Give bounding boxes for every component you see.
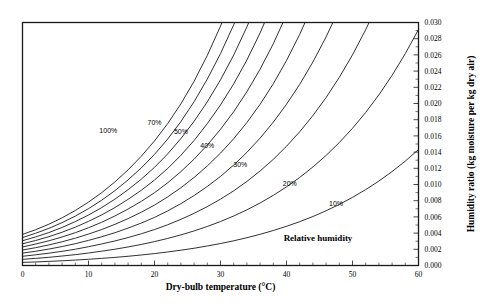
rh-curve-label-50: 50% — [174, 128, 188, 135]
y-axis-ticks-group — [414, 23, 419, 266]
plot-frame-group — [23, 23, 419, 266]
x-axis-tick-labels-group: 0102030405060 — [21, 270, 423, 279]
rh-curve-90 — [23, 0, 261, 238]
x-tick-label: 10 — [85, 270, 93, 279]
y-tick-label: 0.008 — [425, 196, 442, 205]
y-tick-label: 0.010 — [425, 180, 442, 189]
rh-curve-100 — [23, 0, 247, 234]
x-tick-label: 20 — [151, 270, 159, 279]
rh-curve-label-40: 40% — [200, 142, 214, 149]
relative-humidity-legend-label: Relative humidity — [284, 233, 353, 243]
y-tick-label: 0.012 — [425, 164, 442, 173]
y-tick-label: 0.016 — [425, 132, 442, 141]
plot-frame — [23, 23, 419, 266]
y-tick-label: 0.000 — [425, 261, 442, 270]
y-tick-label: 0.020 — [425, 99, 442, 108]
rh-curve-40 — [23, 0, 366, 253]
rh-curve-30 — [23, 0, 406, 256]
rh-curves-group — [23, 0, 419, 262]
y-tick-label: 0.004 — [425, 229, 442, 238]
y-tick-label: 0.006 — [425, 213, 442, 222]
y-tick-label: 0.018 — [425, 115, 442, 124]
x-axis-ticks-group — [23, 261, 419, 266]
y-tick-label: 0.024 — [425, 67, 442, 76]
y-axis-tick-labels-group: 0.0000.0020.0040.0060.0080.0100.0120.014… — [425, 18, 442, 270]
rh-curve-label-100: 100% — [99, 127, 117, 134]
x-tick-label: 60 — [415, 270, 423, 279]
x-tick-label: 50 — [349, 270, 357, 279]
x-tick-label: 40 — [283, 270, 291, 279]
rh-curve-label-20: 20% — [283, 180, 297, 187]
y-axis-title: Humidity ratio (kg moisture per kg dry a… — [466, 56, 477, 233]
y-tick-label: 0.028 — [425, 34, 442, 43]
rh-curve-50 — [23, 0, 340, 250]
x-tick-label: 0 — [21, 270, 25, 279]
rh-curve-label-10: 10% — [329, 200, 343, 207]
y-tick-label: 0.014 — [425, 148, 442, 157]
rh-curve-label-30: 30% — [233, 161, 247, 168]
y-tick-label: 0.002 — [425, 245, 442, 254]
y-tick-label: 0.026 — [425, 51, 442, 60]
y-tick-label: 0.030 — [425, 18, 442, 27]
x-tick-label: 30 — [217, 270, 225, 279]
rh-curve-label-70: 70% — [147, 119, 161, 126]
rh-curve-20 — [23, 29, 419, 259]
x-axis-title: Dry-bulb temperature (°C) — [166, 282, 276, 293]
y-tick-label: 0.022 — [425, 83, 442, 92]
psychrometric-chart-figure: 0102030405060 0.0000.0020.0040.0060.0080… — [0, 0, 493, 308]
chart-canvas: 0102030405060 0.0000.0020.0040.0060.0080… — [0, 0, 493, 308]
